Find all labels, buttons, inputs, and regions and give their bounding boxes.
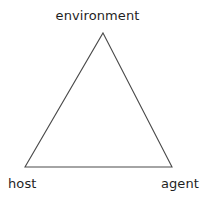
triangle-diagram: environment host agent	[0, 0, 207, 198]
triangle-outline	[25, 33, 172, 167]
node-label-environment: environment	[0, 9, 195, 23]
node-label-agent: agent	[0, 177, 199, 191]
triangle-shape	[0, 0, 207, 198]
